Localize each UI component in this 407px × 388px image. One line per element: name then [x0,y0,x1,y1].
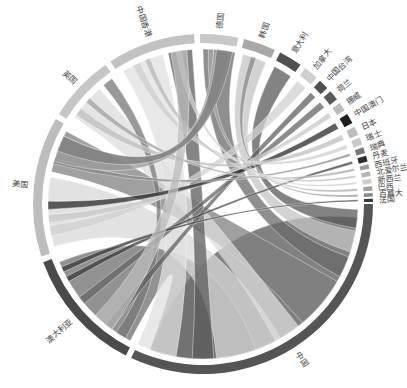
group-label: 德国 [214,12,225,29]
group-label: 意大利 [289,30,310,56]
group-label: 英国 [61,68,79,86]
group-label: 加拿大 [311,46,334,71]
group-arc [364,199,373,202]
group-label: 中国 [294,349,311,368]
group-arc [340,114,353,127]
chord-ribbons [48,49,358,359]
group-arc [324,91,337,105]
chord-diagram: 中国澳大利亚美国英国中国香港德国韩国意大利加拿大中国台湾荷兰挪威中国澳门日本瑞士… [0,0,407,388]
group-arc [362,179,372,185]
group-label: 美国 [12,178,29,190]
group-label: 挪威 [344,89,363,106]
group-label: 荷兰 [335,77,354,95]
group-arc [357,156,367,164]
group-arc [314,81,328,95]
group-arc [363,186,372,191]
group-arc [200,34,238,47]
group-arc [355,147,365,155]
group-label: 法国 [379,194,395,204]
group-arc [351,138,362,148]
group-arc [361,172,371,178]
group-label: 韩国 [257,21,272,39]
group-arc [360,164,370,170]
group-arc [364,193,373,197]
group-label: 澳大利亚 [44,317,75,346]
group-arc [300,68,317,84]
group-arc [332,103,344,115]
group-arc [346,127,358,139]
group-label: 中国香港 [134,4,153,38]
